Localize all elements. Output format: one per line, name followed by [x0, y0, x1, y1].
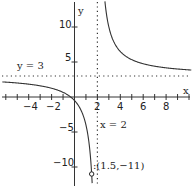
- y-tick-label: −5: [59, 122, 74, 133]
- x-tick-label: 4: [117, 101, 123, 112]
- curve-branch: [105, 1, 191, 70]
- x-tick-label: −2: [46, 101, 61, 112]
- y-axis-label: y: [77, 5, 84, 16]
- h-asymptote-label: y = 3: [16, 60, 44, 71]
- point-label: :(1.5,−11): [93, 160, 144, 171]
- x-tick-label: 2: [94, 101, 100, 112]
- x-tick-label: −4: [23, 101, 38, 112]
- x-tick-label: 6: [140, 101, 146, 112]
- v-asymptote-label: x = 2: [100, 119, 127, 130]
- x-axis-label: x: [183, 85, 189, 96]
- axes: [2, 2, 190, 186]
- labels: y x y = 3 x = 2 :(1.5,−11) −4 −2 2 4 6 8…: [16, 5, 189, 171]
- marked-point: [89, 172, 93, 176]
- y-tick-label: 10: [59, 19, 72, 30]
- x-tick-label: 8: [163, 101, 169, 112]
- y-tick-label: 5: [65, 52, 71, 63]
- asymptotes: [2, 2, 190, 186]
- y-tick-label: −10: [53, 157, 74, 168]
- graph: y x y = 3 x = 2 :(1.5,−11) −4 −2 2 4 6 8…: [0, 0, 192, 188]
